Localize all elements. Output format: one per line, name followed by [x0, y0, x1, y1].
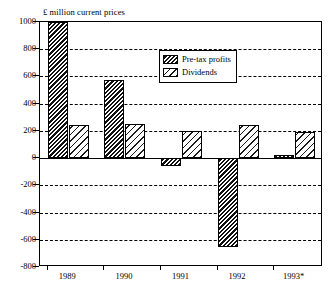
legend-swatch-icon — [163, 68, 178, 77]
bar — [274, 155, 294, 158]
legend-swatch-icon — [163, 55, 178, 64]
x-axis-tick — [160, 266, 161, 270]
legend-label: Pre-tax profits — [182, 55, 231, 64]
legend-label: Dividends — [182, 68, 217, 77]
y-axis-tick-label: -800 — [2, 262, 36, 271]
gridline — [40, 240, 321, 241]
gridline — [40, 185, 321, 186]
x-axis-tick-label: 1992 — [212, 272, 262, 281]
x-axis-tick-label: 1990 — [99, 272, 149, 281]
bar — [239, 125, 259, 158]
y-axis-tick-label: 600 — [2, 71, 36, 80]
bar — [161, 158, 181, 165]
y-axis-tick-label: -400 — [2, 207, 36, 216]
x-axis-tick-label: 1991 — [156, 272, 206, 281]
x-axis-tick — [273, 266, 274, 270]
chart-legend: Pre-tax profits Dividends — [159, 50, 237, 83]
legend-item-dividends: Dividends — [163, 66, 231, 79]
y-axis-tick-label: 0 — [2, 153, 36, 162]
bar — [104, 80, 124, 158]
x-axis-tick-label: 1989 — [42, 272, 92, 281]
bar — [48, 22, 68, 158]
y-axis-tick-label: 200 — [2, 126, 36, 135]
x-axis-tick — [47, 266, 48, 270]
legend-item-pre-tax-profits: Pre-tax profits — [163, 53, 231, 66]
bar — [69, 125, 89, 158]
y-axis-tick-label: -200 — [2, 180, 36, 189]
gridline — [40, 104, 321, 105]
y-axis-tick-label: 1000 — [2, 17, 36, 26]
bar — [218, 158, 238, 246]
y-axis-tick-label: 400 — [2, 98, 36, 107]
bar — [182, 131, 202, 158]
bar-chart: £ million current prices 100080060040020… — [0, 0, 336, 293]
bar — [125, 124, 145, 158]
y-axis-title: £ million current prices — [43, 7, 125, 17]
x-axis-tick — [217, 266, 218, 270]
y-axis-tick-label: -600 — [2, 235, 36, 244]
x-axis-tick-label: 1993* — [269, 272, 319, 281]
bar — [295, 132, 315, 158]
y-axis-tick — [33, 266, 39, 267]
gridline — [40, 213, 321, 214]
x-axis-tick — [103, 266, 104, 270]
y-axis-tick-label: 800 — [2, 44, 36, 53]
